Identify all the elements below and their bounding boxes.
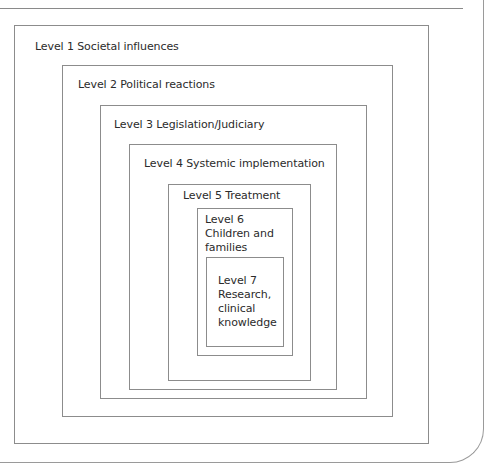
level-6-label: Level 6 Children and families <box>205 213 274 255</box>
level-7-label: Level 7 Research, clinical knowledge <box>218 274 277 330</box>
level-6-line-3: families <box>205 241 274 255</box>
level-6-line-2: Children and <box>205 227 274 241</box>
level-4-label: Level 4 Systemic implementation <box>144 157 325 171</box>
level-7-line-4: knowledge <box>218 316 277 330</box>
level-1-label: Level 1 Societal influences <box>35 40 179 54</box>
level-7-line-3: clinical <box>218 302 277 316</box>
level-7-line-1: Level 7 <box>218 274 277 288</box>
level-3-label: Level 3 Legislation/Judiciary <box>114 118 264 132</box>
level-5-label: Level 5 Treatment <box>183 189 280 203</box>
level-6-line-1: Level 6 <box>205 213 274 227</box>
level-2-label: Level 2 Political reactions <box>78 78 215 92</box>
level-7-line-2: Research, <box>218 288 277 302</box>
